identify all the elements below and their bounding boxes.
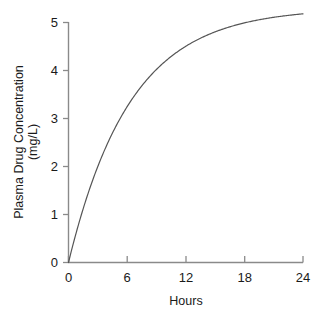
x-tick-label-6: 6 (124, 270, 131, 285)
x-tick-label-24: 24 (296, 270, 310, 285)
chart-background (0, 0, 327, 321)
y-tick-label-4: 4 (51, 63, 58, 78)
x-tick-label-18: 18 (237, 270, 251, 285)
x-tick-label-12: 12 (179, 270, 193, 285)
plasma-concentration-line-chart: 5 4 3 2 1 0 0 6 12 18 24 Hours Plasma Dr… (0, 0, 327, 321)
x-tick-label-0: 0 (65, 270, 72, 285)
chart-figure: 5 4 3 2 1 0 0 6 12 18 24 Hours Plasma Dr… (0, 0, 327, 321)
y-tick-label-1: 1 (51, 207, 58, 222)
y-axis-title-line1: Plasma Drug Concentration (12, 65, 26, 219)
y-axis-title-line2: (mg/L) (26, 124, 40, 160)
y-tick-label-3: 3 (51, 111, 58, 126)
x-axis-title: Hours (169, 294, 202, 308)
y-tick-label-2: 2 (51, 159, 58, 174)
y-tick-label-5: 5 (51, 15, 58, 30)
y-tick-label-0: 0 (51, 255, 58, 270)
